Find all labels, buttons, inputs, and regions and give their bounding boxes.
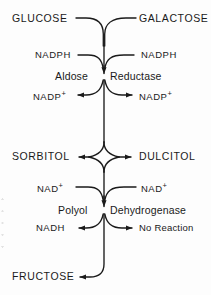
edge-nadph-left-in [78,55,103,69]
star-junction-bottom-left [89,157,104,172]
enzyme-label-polyol-dehydrogenase-word2: Dehydrogenase [110,205,186,216]
edge-nadp-left-out [78,80,103,95]
cofactor-text: NADP [33,91,61,102]
pathway-diagram: GLUCOSE GALACTOSE NADPH NADPH Aldose Red… [0,0,211,295]
cofactor-label-nadh: NADH [36,223,65,233]
edge-noreaction-out [105,214,132,228]
metabolite-label-fructose: FRUCTOSE [12,271,74,282]
star-junction-bottom-right [104,157,119,172]
cofactor-label-nadph-left: NADPH [35,50,71,60]
pathway-arrows-layer [0,0,211,295]
charge-superscript: + [163,181,167,190]
cofactor-label-nadp-plus-right: NADP+ [139,90,172,102]
edge-nad-left-in [76,187,103,201]
star-junction-top-right [104,142,119,157]
enzyme-label-aldose-reductase-word1: Aldose [55,71,88,82]
cofactor-label-nad-plus-left: NAD+ [37,182,63,194]
edge-glucose-to-stem [76,18,103,46]
scan-edge-artifact [1,196,4,250]
charge-superscript: + [167,89,171,98]
cofactor-label-nadp-plus-left: NADP+ [33,90,66,102]
cofactor-label-nadph-right: NADPH [141,50,177,60]
edge-nad-right-in [105,187,136,201]
charge-superscript: + [59,181,63,190]
edge-nadph-right-in [105,55,134,69]
metabolite-label-sorbitol: SORBITOL [12,151,70,162]
metabolite-label-glucose: GLUCOSE [12,13,68,24]
cofactor-text: NAD [37,183,59,194]
edge-dehydrogenase-to-fructose [80,214,104,277]
charge-superscript: + [61,89,65,98]
edge-nadh-out [79,214,103,228]
cofactor-text: NAD [141,183,163,194]
metabolite-label-galactose: GALACTOSE [139,13,208,24]
cofactor-text: NADP [139,91,167,102]
edge-nadp-right-out [105,80,132,95]
outcome-label-no-reaction: No Reaction [139,223,193,233]
cofactor-label-nad-plus-right: NAD+ [141,182,167,194]
metabolite-label-dulcitol: DULCITOL [139,151,196,162]
star-junction-top-left [89,142,104,157]
edge-galactose-to-stem [105,18,136,46]
enzyme-label-polyol-dehydrogenase-word1: Polyol [58,205,88,216]
enzyme-label-aldose-reductase-word2: Reductase [110,71,162,82]
